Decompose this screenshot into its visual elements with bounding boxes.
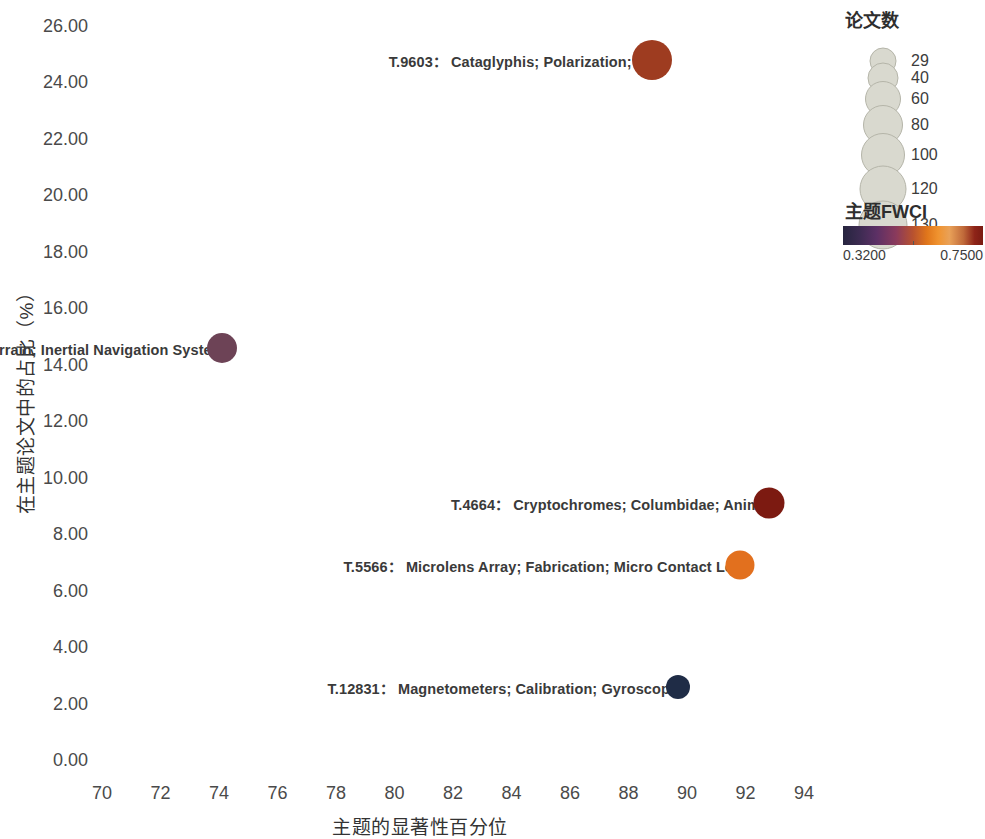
x-tick-label: 76 (267, 783, 287, 804)
size-legend-label: 29 (911, 52, 929, 70)
point-label: T.4664： Cryptochromes; Columbidae; Anima… (451, 493, 781, 514)
x-tick-label: 92 (735, 783, 755, 804)
color-legend-title: 主题FWCI (845, 197, 985, 223)
size-legend-label: 60 (911, 90, 929, 108)
data-point-bubble[interactable] (753, 488, 784, 519)
size-legend-label: 40 (911, 69, 929, 87)
data-point-bubble[interactable] (725, 551, 754, 580)
color-legend: 主题FWCI 0.3200 0.7500 (843, 197, 985, 267)
point-label: T.9603： Cataglyphis; Polarization; Ants (389, 49, 668, 70)
data-point-bubble[interactable] (666, 675, 690, 699)
x-tick-label: 82 (443, 783, 463, 804)
x-axis-title: 主题的显著性百分位 (0, 812, 840, 839)
x-tick-label: 84 (501, 783, 521, 804)
x-tick-label: 74 (209, 783, 229, 804)
bubble-chart: 在主题论文中的占比（%） 0.002.004.006.008.0010.0012… (0, 0, 985, 839)
size-legend: 论文数 29406080100120130 (843, 6, 983, 194)
x-tick-label: 94 (794, 783, 814, 804)
x-tick-label: 80 (384, 783, 404, 804)
x-tick-label: 70 (92, 783, 112, 804)
point-label: T.13568： Underwater; Terrain; Inertial N… (0, 337, 233, 358)
size-legend-items: 29406080100120130 (843, 34, 983, 194)
size-legend-label: 80 (911, 116, 929, 134)
point-label: T.12831： Magnetometers; Calibration; Gyr… (327, 676, 686, 697)
point-label: T.5566： Microlens Array; Fabrication; Mi… (344, 555, 751, 576)
x-tick-label: 72 (150, 783, 170, 804)
colorbar-notch (913, 241, 914, 245)
data-point-bubble[interactable] (207, 333, 237, 363)
x-tick-label: 78 (326, 783, 346, 804)
x-tick-label: 86 (560, 783, 580, 804)
x-tick-label: 90 (677, 783, 697, 804)
size-legend-title: 论文数 (845, 6, 983, 32)
colorbar-ticks: 0.3200 0.7500 (843, 245, 983, 267)
size-legend-label: 100 (911, 146, 938, 164)
plot-area: T.9603： Cataglyphis; Polarization; AntsT… (0, 0, 840, 775)
colorbar-min-label: 0.3200 (843, 247, 886, 263)
data-point-bubble[interactable] (632, 40, 672, 80)
colorbar-max-label: 0.7500 (940, 247, 983, 263)
x-tick-label: 88 (618, 783, 638, 804)
size-legend-label: 120 (911, 180, 938, 198)
